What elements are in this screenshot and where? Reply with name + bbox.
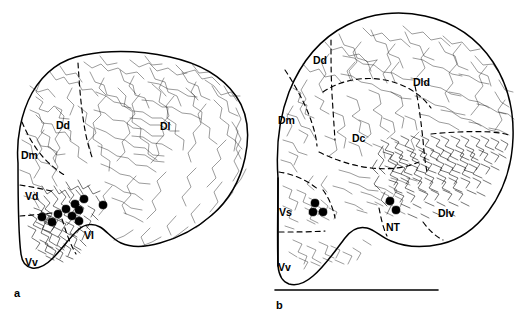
fiber-plexus-a (20, 56, 246, 246)
boundary-dm-dd-b (285, 70, 317, 146)
region-label-dd: Dd (313, 55, 327, 66)
soma-marker (386, 197, 394, 205)
region-label-dm: Dm (21, 150, 38, 161)
panel-a-drawing (0, 0, 263, 327)
dense-terminal-field-a (28, 180, 101, 262)
boundary-dd-dl-a (78, 63, 92, 157)
region-label-nt: NT (386, 222, 400, 233)
region-label-dld: Dld (413, 77, 430, 88)
panel-a: Dd Dl Dm Vd Vl Vv a (0, 0, 263, 327)
soma-marker (75, 206, 83, 214)
soma-marker (62, 205, 70, 213)
soma-marker (319, 208, 327, 216)
panel-b-drawing (263, 0, 526, 327)
soma-marker (48, 218, 56, 226)
boundary-vs-vv-b (279, 231, 325, 232)
soma-marker (75, 217, 83, 225)
soma-group-a (38, 195, 107, 226)
region-label-vs: Vs (279, 207, 292, 218)
soma-marker (54, 210, 62, 218)
region-label-dc: Dc (352, 133, 365, 144)
region-label-vd: Vd (25, 191, 38, 202)
region-label-vv: Vv (278, 262, 291, 273)
soma-marker (80, 195, 88, 203)
region-label-dd: Dd (56, 120, 70, 131)
panel-letter-b: b (276, 299, 283, 311)
boundary-dc-lower-b (319, 152, 419, 169)
soma-marker (311, 199, 319, 207)
soma-marker (309, 208, 317, 216)
panel-b: Dd Dld Dm Dc Dlv Vs NT Vv b (263, 0, 526, 327)
boundary-dd-dld-b (331, 40, 335, 140)
region-label-dm: Dm (278, 115, 295, 126)
panel-letter-a: a (14, 287, 20, 299)
region-label-dl: Dl (160, 121, 171, 132)
soma-marker (68, 212, 76, 220)
boundary-dlv-lower-b (423, 222, 443, 240)
soma-marker (99, 201, 107, 209)
soma-group-b (309, 197, 400, 216)
boundary-dlv-upper-b (431, 132, 511, 136)
region-label-vv: Vv (25, 257, 38, 268)
soma-marker (38, 213, 46, 221)
region-label-dlv: Dlv (438, 208, 454, 219)
soma-marker (392, 206, 400, 214)
section-outline-a (18, 52, 248, 268)
figure-panel-pair: Dd Dl Dm Vd Vl Vv a (0, 0, 526, 327)
region-label-vl: Vl (84, 230, 94, 241)
boundary-vs-upper-b (279, 172, 319, 190)
